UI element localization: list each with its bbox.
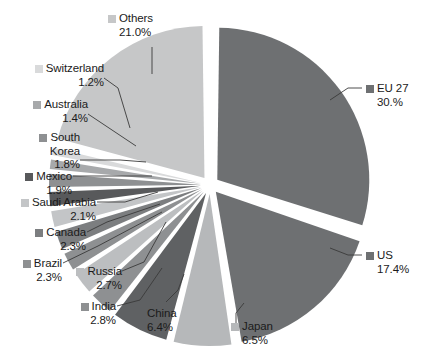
australia-swatch-icon (33, 101, 41, 109)
slice-label-russia-name: Russia (87, 265, 122, 277)
saudi-arabia-swatch-icon (21, 199, 29, 207)
slice-label-mexico-name-row: Mexico (0, 170, 72, 184)
slice-label-others-pct: 21.0% (108, 26, 153, 40)
slice-label-switzerland-pct: 1.2% (0, 76, 104, 90)
slice-label-india-name-row: India (62, 300, 116, 314)
slice-label-japan-name-row: Japan (231, 320, 273, 334)
slice-label-australia-name-row: Australia (0, 98, 88, 112)
slice-label-saudi-arabia-name: Saudi Arabia (32, 196, 96, 208)
brazil-swatch-icon (23, 260, 31, 268)
slice-label-saudi-arabia-name-row: Saudi Arabia (0, 196, 96, 210)
slice-label-eu27-name: EU 27 (377, 82, 408, 94)
slice-label-eu27: EU 27 30.% (366, 82, 408, 109)
slice-label-south-korea-name-row: South (0, 131, 80, 145)
slice-label-canada-name-row: Canada (0, 226, 86, 240)
switzerland-swatch-icon (35, 65, 43, 73)
slice-label-saudi-arabia-pct: 2.1% (0, 210, 96, 224)
slice-label-others-name: Others (119, 12, 153, 24)
slice-label-china: China 6.4% (136, 307, 177, 334)
slice-label-south-korea-name: South (50, 131, 80, 143)
slice-label-canada-pct: 2.3% (0, 240, 86, 254)
slice-label-mexico-pct: 1.9% (0, 184, 72, 198)
eu27-swatch-icon (366, 85, 374, 93)
japan-swatch-icon (231, 323, 239, 331)
slice-label-brazil-name: Brazil (34, 257, 62, 269)
slice-label-us: US 17.4% (366, 249, 409, 276)
slice-label-japan-pct: 6.5% (231, 334, 273, 348)
slice-label-japan-name: Japan (242, 320, 273, 332)
slice-label-switzerland-name-row: Switzerland (0, 62, 104, 76)
slice-label-japan: Japan 6.5% (231, 320, 273, 347)
slice-label-australia-name: Australia (44, 98, 88, 110)
slice-label-eu27-pct: 30.% (366, 96, 408, 110)
slice-label-south-korea: South Korea 1.8% (0, 131, 80, 172)
slice-label-brazil-name-row: Brazil (0, 257, 62, 271)
slice-label-india: India 2.8% (62, 300, 116, 327)
slice-label-russia-pct: 2.7% (62, 279, 122, 293)
slice-label-switzerland: Switzerland 1.2% (0, 62, 104, 89)
us-swatch-icon (366, 252, 374, 260)
india-swatch-icon (81, 303, 89, 311)
slice-label-russia: Russia 2.7% (62, 265, 122, 292)
slice-label-china-name: China (147, 307, 177, 319)
slice-label-us-name-row: US (366, 249, 409, 263)
china-swatch-icon (136, 310, 144, 318)
pie-chart: Others 21.0% Switzerland 1.2% Australia … (0, 0, 424, 360)
slice-label-brazil-pct: 2.3% (0, 271, 62, 285)
slice-label-saudi-arabia: Saudi Arabia 2.1% (0, 196, 96, 223)
slice-label-us-pct: 17.4% (366, 263, 409, 277)
slice-label-australia-pct: 1.4% (0, 112, 88, 126)
slice-label-canada-name: Canada (46, 226, 86, 238)
slice-label-brazil: Brazil 2.3% (0, 257, 62, 284)
south-korea-swatch-icon (39, 134, 47, 142)
mexico-swatch-icon (25, 173, 33, 181)
pie-slice-eu-27 (217, 28, 369, 226)
slice-label-india-pct: 2.8% (62, 314, 116, 328)
slice-label-switzerland-name: Switzerland (46, 62, 104, 74)
slice-label-canada: Canada 2.3% (0, 226, 86, 253)
slice-label-india-name: India (92, 300, 116, 312)
russia-swatch-icon (76, 268, 84, 276)
others-swatch-icon (108, 15, 116, 23)
slice-label-australia: Australia 1.4% (0, 98, 88, 125)
slice-label-china-name-row: China (136, 307, 177, 321)
slice-label-mexico-name: Mexico (36, 170, 72, 182)
slice-label-china-pct: 6.4% (136, 321, 177, 335)
slice-label-mexico: Mexico 1.9% (0, 170, 72, 197)
canada-swatch-icon (35, 229, 43, 237)
slice-label-others: Others 21.0% (108, 12, 153, 39)
slice-label-us-name: US (377, 249, 393, 261)
slice-label-south-korea-name2: Korea (0, 145, 80, 159)
slice-label-eu27-name-row: EU 27 (366, 82, 408, 96)
slice-label-others-name-row: Others (108, 12, 153, 26)
slice-label-russia-name-row: Russia (62, 265, 122, 279)
